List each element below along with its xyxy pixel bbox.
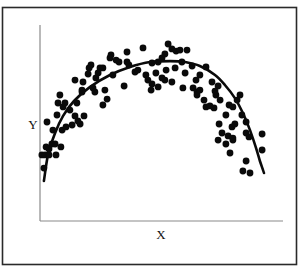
data-point: [100, 102, 107, 109]
data-point: [85, 71, 92, 78]
data-point: [104, 96, 111, 103]
data-point: [227, 150, 234, 157]
data-point: [55, 100, 62, 107]
data-point: [140, 45, 147, 52]
data-point: [212, 88, 219, 95]
data-point: [53, 152, 60, 159]
y-axis-label: Y: [28, 117, 38, 132]
data-point: [149, 81, 156, 88]
data-point: [197, 87, 204, 94]
data-point: [209, 79, 216, 86]
data-point: [223, 112, 230, 119]
data-point: [180, 85, 187, 92]
data-point: [54, 112, 61, 119]
data-point: [62, 100, 69, 107]
data-point: [92, 89, 99, 96]
data-point: [230, 135, 237, 142]
data-point: [72, 113, 79, 120]
data-point: [72, 77, 79, 84]
data-point: [107, 55, 114, 62]
data-point: [153, 70, 160, 77]
data-point: [69, 122, 76, 129]
data-point: [223, 141, 230, 148]
data-point: [184, 47, 191, 54]
data-point: [259, 131, 266, 138]
data-point: [259, 147, 266, 154]
data-point: [100, 65, 107, 72]
data-point: [80, 79, 87, 86]
data-point: [148, 87, 155, 94]
data-point: [163, 67, 170, 74]
data-point: [215, 137, 222, 144]
data-point: [81, 113, 88, 120]
data-point: [169, 79, 176, 86]
data-point: [172, 65, 179, 72]
data-point: [102, 87, 109, 94]
data-point: [182, 70, 189, 77]
data-point: [86, 65, 93, 72]
data-point: [243, 158, 250, 165]
data-point: [177, 47, 184, 54]
data-point: [44, 119, 51, 126]
data-point: [240, 168, 247, 175]
data-point: [159, 75, 166, 82]
data-point: [135, 67, 142, 74]
data-point: [124, 49, 131, 56]
data-point: [121, 83, 128, 90]
data-point: [63, 124, 70, 131]
data-point: [217, 97, 224, 104]
data-point: [211, 105, 218, 112]
data-point: [58, 144, 65, 151]
data-point: [230, 104, 237, 111]
data-point: [116, 59, 123, 66]
data-point: [219, 130, 226, 137]
data-point: [232, 121, 239, 128]
data-point: [247, 170, 254, 177]
scatter-chart: Y X: [0, 0, 305, 272]
x-axis-label: X: [156, 227, 166, 242]
data-point: [216, 121, 223, 128]
data-point: [197, 72, 204, 79]
data-point: [57, 92, 64, 99]
data-point: [155, 84, 162, 91]
data-point: [201, 97, 208, 104]
